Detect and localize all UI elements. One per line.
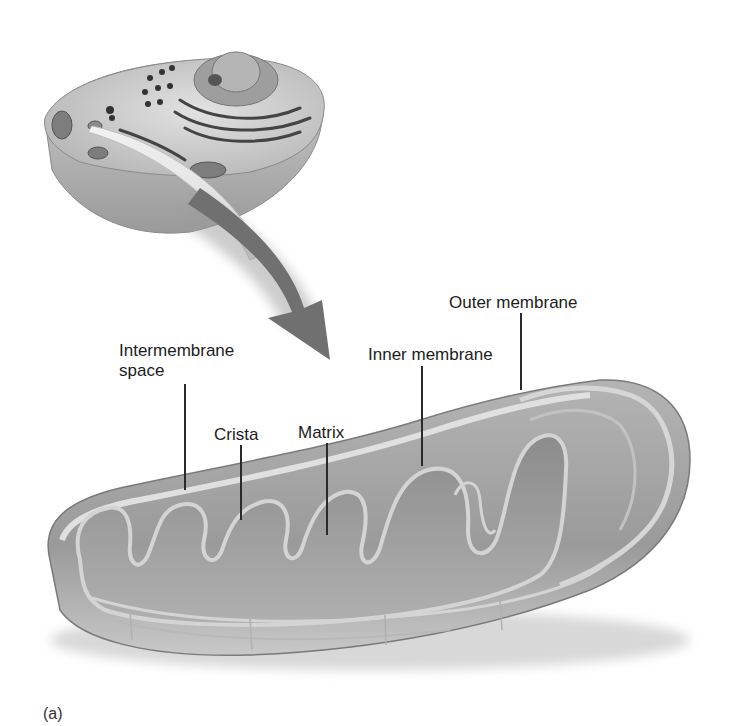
- leader-matrix: [326, 443, 328, 535]
- label-crista: Crista: [214, 425, 258, 444]
- cell-illustration: [45, 52, 325, 233]
- label-matrix: Matrix: [298, 423, 344, 442]
- leader-crista: [240, 445, 242, 520]
- diagram-artwork: [0, 0, 730, 726]
- zoom-arrow: [188, 188, 330, 360]
- label-outer-membrane: Outer membrane: [449, 293, 578, 312]
- panel-label: (a): [43, 705, 63, 723]
- figure-canvas: Outer membrane Inner membrane Intermembr…: [0, 0, 730, 726]
- label-intermembrane-space-line1: Intermembrane: [119, 341, 234, 360]
- leader-intermembrane-space: [184, 384, 186, 490]
- leader-inner-membrane: [421, 366, 423, 466]
- leader-outer-membrane: [520, 313, 522, 390]
- label-inner-membrane: Inner membrane: [368, 345, 493, 364]
- label-intermembrane-space-line2: space: [119, 361, 164, 380]
- mitochondrion-illustration: [48, 380, 690, 670]
